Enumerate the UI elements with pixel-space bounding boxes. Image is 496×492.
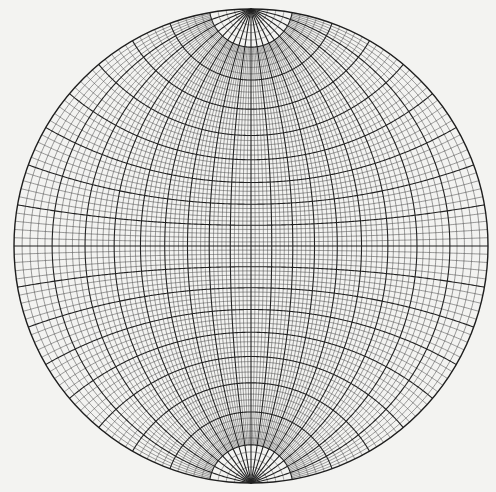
wulff-net-figure	[0, 0, 496, 492]
stereonet-svg	[0, 0, 496, 492]
major-grid-lines	[14, 9, 488, 483]
